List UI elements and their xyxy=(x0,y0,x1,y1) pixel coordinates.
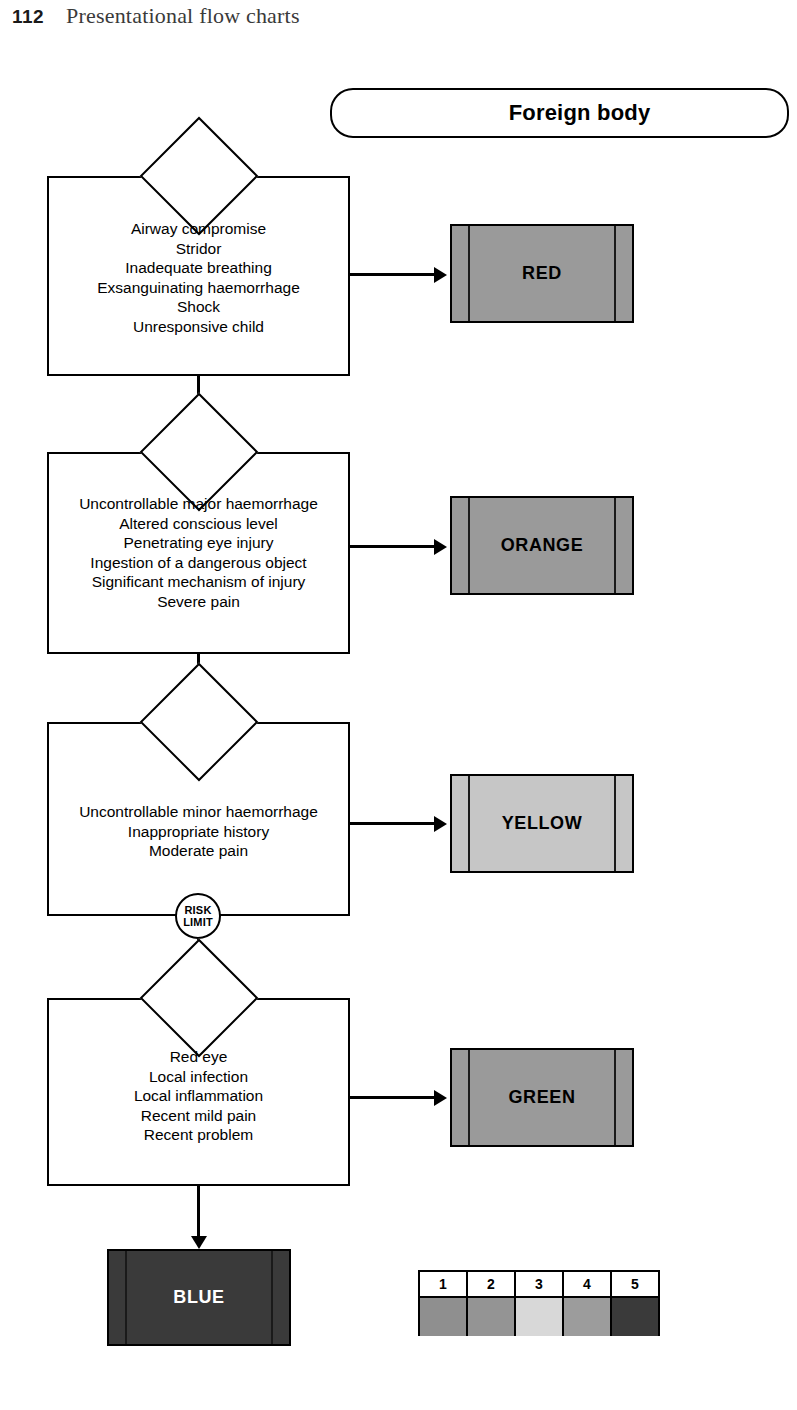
flow-stage-orange: Uncontrollable major haemorrhage Altered… xyxy=(47,452,350,654)
criteria-list-yellow: Uncontrollable minor haemorrhage Inappro… xyxy=(47,802,350,861)
criteria-item: Recent problem xyxy=(47,1125,350,1145)
flow-stage-green: Red eye Local infection Local inflammati… xyxy=(47,998,350,1186)
running-head-title: Presentational flow charts xyxy=(66,3,300,29)
legend-number: 1 xyxy=(420,1272,468,1296)
priority-swatch-green: GREEN xyxy=(450,1048,634,1147)
criteria-item: Moderate pain xyxy=(47,841,350,861)
arrowhead-yellow xyxy=(434,816,447,832)
criteria-item: Stridor xyxy=(47,239,350,259)
legend-number: 4 xyxy=(564,1272,612,1296)
criteria-list-green: Red eye Local infection Local inflammati… xyxy=(47,1047,350,1145)
criteria-item: Penetrating eye injury xyxy=(47,533,350,553)
priority-swatch-red: RED xyxy=(450,224,634,323)
chart-title-box: Foreign body xyxy=(330,88,789,138)
page-header: 112 Presentational flow charts xyxy=(0,0,797,48)
criteria-item: Ingestion of a dangerous object xyxy=(47,553,350,573)
priority-label-orange: ORANGE xyxy=(501,535,584,556)
page-number: 112 xyxy=(12,6,44,28)
legend-number: 3 xyxy=(516,1272,564,1296)
flow-stage-yellow: Uncontrollable minor haemorrhage Inappro… xyxy=(47,722,350,916)
connector-red-to-swatch xyxy=(350,273,434,276)
swatch-rule-right xyxy=(271,1251,273,1344)
criteria-list-orange: Uncontrollable major haemorrhage Altered… xyxy=(47,494,350,611)
priority-legend: 1 2 3 4 5 xyxy=(418,1270,660,1336)
priority-swatch-orange: ORANGE xyxy=(450,496,634,595)
connector-green-to-blue xyxy=(197,1186,200,1238)
priority-label-blue: BLUE xyxy=(173,1287,224,1308)
criteria-item: Local infection xyxy=(47,1067,350,1087)
criteria-item: Severe pain xyxy=(47,592,350,612)
criteria-list-red: Airway compromise Stridor Inadequate bre… xyxy=(47,219,350,336)
swatch-rule-right xyxy=(614,226,616,321)
criteria-item: Uncontrollable major haemorrhage xyxy=(47,494,350,514)
swatch-rule-right xyxy=(614,1050,616,1145)
swatch-rule-left xyxy=(468,1050,470,1145)
swatch-rule-left xyxy=(468,226,470,321)
criteria-item: Uncontrollable minor haemorrhage xyxy=(47,802,350,822)
legend-swatch xyxy=(564,1298,612,1336)
criteria-item: Shock xyxy=(47,297,350,317)
priority-label-green: GREEN xyxy=(508,1087,575,1108)
criteria-item: Recent mild pain xyxy=(47,1106,350,1126)
swatch-rule-left xyxy=(468,498,470,593)
priority-label-red: RED xyxy=(522,263,562,284)
criteria-item: Significant mechanism of injury xyxy=(47,572,350,592)
criteria-item: Unresponsive child xyxy=(47,317,350,337)
swatch-rule-right xyxy=(614,776,616,871)
priority-swatch-blue: BLUE xyxy=(107,1249,291,1346)
legend-swatch xyxy=(516,1298,564,1336)
legend-swatch xyxy=(420,1298,468,1336)
arrowhead-to-blue xyxy=(191,1236,207,1249)
swatch-rule-left xyxy=(125,1251,127,1344)
chart-title: Foreign body xyxy=(469,100,651,126)
risk-limit-line-1: RISK xyxy=(184,904,211,917)
criteria-item: Exsanguinating haemorrhage xyxy=(47,278,350,298)
criteria-item: Airway compromise xyxy=(47,219,350,239)
criteria-item: Inadequate breathing xyxy=(47,258,350,278)
priority-label-yellow: YELLOW xyxy=(502,813,583,834)
legend-number: 5 xyxy=(612,1272,658,1296)
swatch-rule-left xyxy=(468,776,470,871)
criteria-item: Local inflammation xyxy=(47,1086,350,1106)
risk-limit-line-2: LIMIT xyxy=(183,916,213,929)
legend-number-row: 1 2 3 4 5 xyxy=(420,1272,658,1296)
connector-yellow-to-swatch xyxy=(350,822,434,825)
legend-swatch xyxy=(468,1298,516,1336)
arrowhead-green xyxy=(434,1090,447,1106)
legend-colour-row xyxy=(420,1296,658,1336)
arrowhead-orange xyxy=(434,539,447,555)
swatch-rule-right xyxy=(614,498,616,593)
criteria-item: Inappropriate history xyxy=(47,822,350,842)
connector-green-to-swatch xyxy=(350,1096,434,1099)
arrowhead-red xyxy=(434,267,447,283)
connector-orange-to-swatch xyxy=(350,545,434,548)
criteria-item: Red eye xyxy=(47,1047,350,1067)
priority-swatch-yellow: YELLOW xyxy=(450,774,634,873)
legend-number: 2 xyxy=(468,1272,516,1296)
risk-limit-node: RISK LIMIT xyxy=(175,893,221,939)
legend-swatch xyxy=(612,1298,658,1336)
flow-stage-red: Airway compromise Stridor Inadequate bre… xyxy=(47,176,350,376)
criteria-item: Altered conscious level xyxy=(47,514,350,534)
